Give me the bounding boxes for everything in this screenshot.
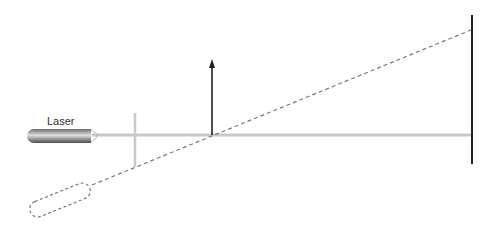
laser-source <box>27 129 97 143</box>
arrowhead-icon <box>209 59 215 68</box>
diagram-canvas: Laser <box>0 0 498 230</box>
tilted-laser-outline <box>27 181 92 220</box>
tilted-path-dashed <box>92 30 471 185</box>
diagram-svg: Laser <box>0 0 498 230</box>
laser-label: Laser <box>47 115 75 127</box>
